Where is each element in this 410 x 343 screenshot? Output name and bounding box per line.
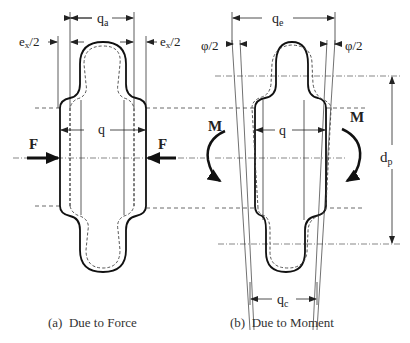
label-qc: qc bbox=[277, 292, 289, 309]
tooth-outline-original-b bbox=[252, 45, 331, 268]
label-moment-left: M bbox=[208, 118, 222, 134]
label-phi-left: φ/2 bbox=[201, 38, 219, 53]
label-force-left: F bbox=[29, 136, 38, 152]
label-ex-right: ex/2 bbox=[160, 34, 180, 50]
label-ex-left: ex/2 bbox=[19, 34, 39, 50]
tooth-outline-a bbox=[60, 42, 146, 272]
label-q-b: q bbox=[279, 123, 286, 138]
label-force-right: F bbox=[158, 136, 167, 152]
moment-arrow-right bbox=[342, 129, 360, 181]
label-q-a: q bbox=[98, 122, 105, 137]
tooth-outline-b bbox=[255, 42, 326, 272]
deformation-diagram: qa ex/2 ex/2 q F F bbox=[0, 0, 410, 343]
panel-a-force: qa ex/2 ex/2 q F F bbox=[13, 11, 205, 272]
label-qe: qe bbox=[272, 11, 284, 28]
label-phi-right: φ/2 bbox=[345, 38, 363, 53]
label-qa: qa bbox=[97, 11, 109, 28]
caption-b: (b) Due to Moment bbox=[230, 315, 334, 330]
label-moment-right: M bbox=[350, 109, 364, 125]
panel-b-moment: qe φ/2 φ/2 q M M dp qc bbox=[201, 11, 408, 330]
caption-a: (a) Due to Force bbox=[48, 315, 137, 330]
moment-arrow-left bbox=[208, 131, 225, 181]
